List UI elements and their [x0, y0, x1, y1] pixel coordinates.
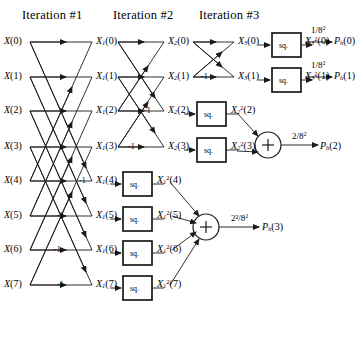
input-label-x5: X(5): [4, 210, 22, 220]
stage1-straight-lines: [30, 42, 92, 285]
squarer-boxes: [123, 33, 301, 300]
weight-neg1-s2-2: -1: [144, 106, 151, 115]
weight-neg1-s1-7: -1: [57, 280, 64, 289]
squarer-label-s3-0: sq.: [279, 41, 288, 50]
output-label-ph0: Ph(0): [334, 36, 355, 47]
squarer-label-s2-3: sq.: [204, 146, 213, 155]
squarer-label-s3-1: sq.: [279, 76, 288, 85]
stage1-label-6: X1(6): [96, 244, 117, 255]
input-label-x7: X(7): [4, 279, 22, 289]
squared-output-x1sq-4: X12(4): [157, 175, 181, 186]
input-label-x4: X(4): [4, 175, 22, 185]
squared-output-x1sq-5: X12(5): [157, 210, 181, 221]
stage2-label-0: X2(0): [168, 36, 189, 47]
stage1-label-7: X1(7): [96, 279, 117, 290]
stage2-label-1: X2(1): [168, 71, 189, 82]
stage1-label-3: X1(3): [96, 141, 117, 152]
output-label-ph2: Ph(2): [320, 141, 341, 152]
squared-output-x2sq-3: X22(3): [231, 141, 255, 152]
stage1-label-4: X1(4): [96, 175, 117, 186]
signal-flow-diagram: Iteration #1 Iteration #2 Iteration #3: [0, 0, 361, 344]
stage1-label-1: X1(1): [96, 71, 117, 82]
stage3-label-0: X3(0): [238, 36, 259, 47]
stage1-label-2: X1(2): [96, 105, 117, 116]
stage2-cross-lines: [118, 42, 164, 147]
weight-neg1-s1-4: -1: [79, 176, 86, 185]
input-label-x2: X(2): [4, 105, 22, 115]
squarer-label-s1-7: sq.: [130, 284, 139, 293]
stage3-label-1: X3(1): [238, 71, 259, 82]
stage1-label-5: X1(5): [96, 210, 117, 221]
input-label-x6: X(6): [4, 244, 22, 254]
squarer-label-s1-5: sq.: [130, 215, 139, 224]
stage2-label-2: X2(2): [168, 105, 189, 116]
stage3-lines: [193, 42, 234, 77]
weight-neg1-s3-1: -1: [201, 72, 208, 81]
output-label-ph3: Ph(3): [262, 222, 283, 233]
squarer-label-s1-6: sq.: [130, 249, 139, 258]
output-label-ph1: Ph(1): [334, 71, 355, 82]
squarer-label-s2-2: sq.: [204, 110, 213, 119]
stage2-straight-lines: [118, 42, 164, 147]
squarer-label-s1-4: sq.: [130, 180, 139, 189]
weight-neg1-s1-6: -1: [54, 245, 61, 254]
stage2-label-3: X2(3): [168, 141, 189, 152]
squared-output-x1sq-6: X12(6): [157, 244, 181, 255]
weight-neg1-s1-5: -1: [57, 211, 64, 220]
input-label-x1: X(1): [4, 71, 22, 81]
input-label-x0: X(0): [4, 36, 22, 46]
squared-output-x1sq-7: X12(7): [157, 279, 181, 290]
gain-label-p0: 1/82: [311, 25, 326, 35]
summer-p3-node: [170, 182, 219, 285]
squared-output-x3sq-1: X32(1): [305, 71, 329, 82]
gain-label-p2: 2/82: [292, 131, 307, 141]
weight-neg1-s2-3: -1: [128, 142, 135, 151]
stage1-label-0: X1(0): [96, 36, 117, 47]
gain-label-p1: 1/82: [311, 60, 326, 70]
input-label-x3: X(3): [4, 141, 22, 151]
squared-output-x3sq-0: X32(0): [305, 36, 329, 47]
squared-output-x2sq-2: X22(2): [231, 105, 255, 116]
stage1-cross-lines: [30, 42, 92, 285]
gain-label-p3: 2²/82: [231, 213, 248, 223]
flow-graph-canvas: [0, 0, 361, 344]
